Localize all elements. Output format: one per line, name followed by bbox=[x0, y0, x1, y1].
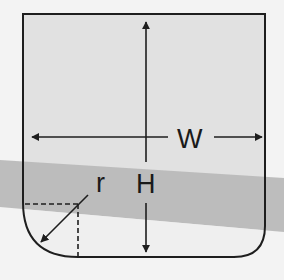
width-label: W bbox=[177, 124, 203, 154]
diagram-canvas: W H r bbox=[0, 0, 284, 280]
rounded-box-diagram: W H r bbox=[0, 0, 284, 280]
height-label: H bbox=[136, 169, 156, 199]
radius-label: r bbox=[96, 168, 105, 198]
